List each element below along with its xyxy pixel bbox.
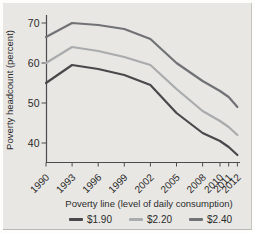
x-tick-label: 1999 — [106, 171, 130, 195]
legend-label: $2.20 — [147, 214, 172, 225]
legend-item-190: $1.90 — [69, 214, 112, 225]
legend-swatch — [129, 218, 143, 220]
poverty-chart-figure: Poverty headcount (percent) Poverty line… — [3, 3, 252, 230]
x-tick-label: 2005 — [158, 171, 182, 195]
y-tick-label: 40 — [28, 137, 40, 149]
x-tick-label: 1993 — [54, 171, 78, 195]
x-tick-label: 1996 — [80, 171, 104, 195]
y-tick-label: 70 — [28, 17, 40, 29]
series-line-190 — [46, 65, 237, 155]
line-chart: Poverty headcount (percent) Poverty line… — [3, 3, 252, 230]
legend-swatch — [189, 218, 203, 220]
x-axis-title: Poverty line (level of daily consumption… — [65, 198, 232, 209]
legend-item-220: $2.20 — [129, 214, 172, 225]
legend-label: $2.40 — [207, 214, 232, 225]
plot-area: 4050607019901993199619992002200520082010… — [28, 15, 243, 195]
y-axis-title: Poverty headcount (percent) — [4, 30, 15, 150]
legend-item-240: $2.40 — [189, 214, 232, 225]
y-tick-label: 50 — [28, 97, 40, 109]
legend-swatch — [69, 218, 83, 220]
x-tick-label: 1990 — [28, 171, 52, 195]
x-tick-label: 2002 — [132, 171, 156, 195]
series-line-220 — [46, 47, 237, 135]
legend: $1.90$2.20$2.40 — [49, 214, 252, 225]
legend-label: $1.90 — [87, 214, 112, 225]
y-tick-label: 60 — [28, 57, 40, 69]
